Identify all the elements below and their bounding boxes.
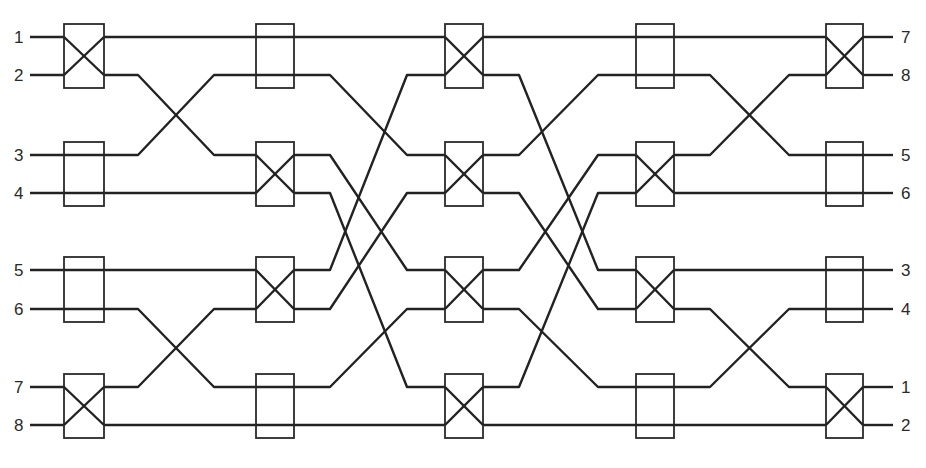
link-2-6-5	[294, 309, 445, 387]
input-label: 6	[14, 300, 23, 319]
switch-4-4-bar	[636, 374, 674, 438]
switch-2-1-bar	[256, 24, 294, 88]
switch-2-2-cross	[256, 142, 294, 206]
switch-box	[256, 24, 294, 88]
switch-4-3-cross	[636, 257, 674, 322]
input-label: 8	[14, 416, 23, 435]
output-label: 4	[901, 300, 910, 319]
switch-4-1-bar	[636, 24, 674, 88]
link-4-6-5	[674, 309, 826, 387]
input-labels: 12345678	[14, 28, 23, 435]
link-2-3-6	[294, 193, 445, 387]
link-1-2-1	[104, 75, 256, 155]
switch-box	[636, 24, 674, 88]
input-label: 1	[14, 28, 23, 47]
switch-2-3-cross	[256, 257, 294, 322]
switch-box	[64, 142, 104, 206]
output-label: 8	[901, 66, 910, 85]
switch-3-1-cross	[445, 24, 483, 88]
switch-5-1-cross	[826, 24, 863, 88]
switch-3-2-cross	[445, 142, 483, 206]
output-label: 7	[901, 28, 910, 47]
switch-box	[64, 257, 104, 322]
link-1-6-5	[104, 309, 256, 387]
switch-box	[826, 257, 863, 322]
switch-box	[826, 142, 863, 206]
link-2-4-1	[294, 75, 445, 270]
switch-1-1-cross	[64, 24, 104, 88]
switch-1-2-bar	[64, 142, 104, 206]
link-3-6-3	[483, 193, 636, 387]
switch-2-4-bar	[256, 374, 294, 438]
output-label: 1	[901, 378, 910, 397]
input-label: 7	[14, 378, 23, 397]
input-label: 3	[14, 146, 23, 165]
switch-5-2-bar	[826, 142, 863, 206]
output-label: 2	[901, 416, 910, 435]
switch-3-3-cross	[445, 257, 483, 322]
switch-3-4-cross	[445, 374, 483, 438]
output-label: 3	[901, 261, 910, 280]
input-label: 4	[14, 184, 23, 203]
switch-5-3-bar	[826, 257, 863, 322]
input-label: 5	[14, 261, 23, 280]
link-4-2-1	[674, 75, 826, 155]
input-label: 2	[14, 66, 23, 85]
link-1-1-2	[104, 75, 256, 155]
link-3-5-6	[483, 309, 636, 387]
output-label: 6	[901, 184, 910, 203]
link-1-5-6	[104, 309, 256, 387]
output-label: 5	[901, 146, 910, 165]
link-2-1-2	[294, 75, 445, 155]
switch-5-4-cross	[826, 374, 863, 438]
switch-4-2-cross	[636, 142, 674, 206]
switch-1-3-bar	[64, 257, 104, 322]
switch-1-4-cross	[64, 374, 104, 438]
switch-elements	[64, 24, 863, 438]
switch-box	[256, 374, 294, 438]
switching-network-diagram: 12345678 78563412	[0, 0, 926, 468]
switch-box	[636, 374, 674, 438]
network-svg: 12345678 78563412	[0, 0, 926, 468]
output-labels: 78563412	[901, 28, 910, 435]
link-3-2-1	[483, 75, 636, 155]
link-3-1-4	[483, 75, 636, 270]
interconnect-wires	[30, 37, 893, 425]
